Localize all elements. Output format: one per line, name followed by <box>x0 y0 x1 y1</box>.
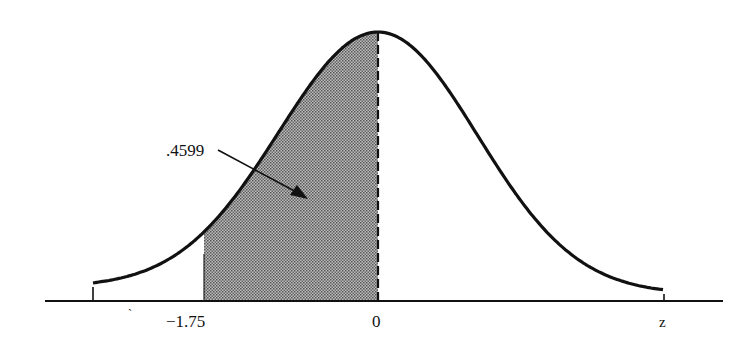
area-label: .4599 <box>166 141 204 160</box>
axis-label-z: z <box>659 314 666 330</box>
tick-label-neg-1-75: −1.75 <box>166 312 205 331</box>
shaded-area <box>204 32 378 301</box>
normal-curve-chart: .4599 −1.75 0 z ` <box>0 0 753 346</box>
tick-label-zero: 0 <box>372 312 381 331</box>
stray-mark: ` <box>128 307 132 321</box>
